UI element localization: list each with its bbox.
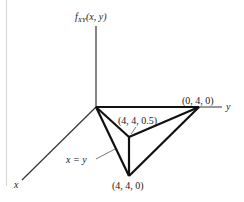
vertex-label-4-4-0: (4, 4, 0) (112, 181, 144, 191)
leader-4-4-05 (131, 127, 136, 134)
vertex-label-0-4-0: (0, 4, 0) (182, 96, 214, 106)
z-axis-label-subscript: XY (78, 16, 86, 24)
leader-x-eq-y (96, 149, 115, 159)
x-axis (22, 107, 96, 180)
x-eq-y-annotation: x = y (66, 155, 87, 165)
y-axis-label: y (226, 102, 230, 112)
x-axis-label: x (14, 180, 18, 190)
z-axis-label-args: (x, y) (86, 11, 107, 22)
vertex-label-4-4-05: (4, 4, 0.5) (118, 116, 157, 126)
z-axis-label: fXY(x, y) (75, 12, 107, 24)
